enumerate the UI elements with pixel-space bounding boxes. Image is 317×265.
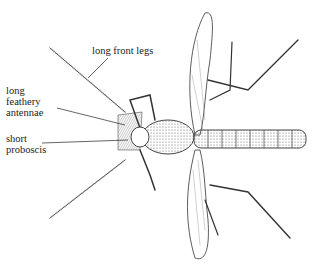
mosquito-diagram: long front legs long feathery antennae s… bbox=[0, 0, 317, 265]
label-short-proboscis: short proboscis bbox=[6, 133, 46, 155]
abdomen bbox=[194, 130, 306, 148]
head bbox=[131, 127, 149, 147]
leader-lines bbox=[42, 58, 128, 143]
label-long-feathery-antennae: long feathery antennae bbox=[6, 85, 43, 118]
thorax bbox=[142, 120, 194, 154]
label-long-front-legs: long front legs bbox=[92, 45, 153, 56]
mosquito-illustration bbox=[0, 0, 317, 265]
